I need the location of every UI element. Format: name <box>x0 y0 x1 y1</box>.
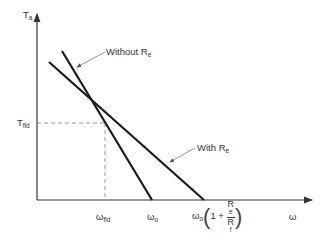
label-with-re: With Re <box>197 143 229 155</box>
y-axis-label: Ta <box>23 10 32 22</box>
tick-omega-o: ωo <box>147 212 158 224</box>
x-axis-label: ω <box>289 212 296 222</box>
line-with-re <box>49 62 204 200</box>
label-without-re: Without Re <box>106 47 151 59</box>
t-fld-label: Tfld <box>17 118 30 130</box>
leader-with-re <box>170 148 195 162</box>
tick-omega-fld: ωfld <box>96 212 110 224</box>
torque-speed-diagram <box>0 0 324 244</box>
tick-omega-o-expr: ωo(1 + ReRf) <box>192 200 242 233</box>
line-without-re <box>62 51 152 200</box>
dashed-guides <box>37 123 105 200</box>
leader-without-re <box>77 52 105 67</box>
